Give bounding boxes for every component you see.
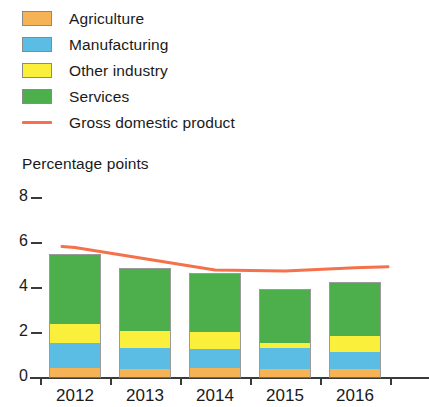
bar-segment[interactable]	[189, 368, 241, 378]
bar-segment[interactable]	[49, 324, 101, 343]
bar-segment[interactable]	[189, 332, 241, 349]
bar-segment[interactable]	[119, 268, 171, 331]
x-axis-tick-label: 2014	[180, 386, 250, 406]
x-axis-tick-label: 2012	[40, 386, 110, 406]
bar-segment[interactable]	[119, 348, 171, 369]
y-axis-tick-label: 2	[2, 322, 28, 340]
bar-segment[interactable]	[49, 254, 101, 324]
x-axis-tick-label: 2013	[110, 386, 180, 406]
y-axis-tick-mark	[31, 197, 42, 199]
bar-stack[interactable]	[259, 0, 311, 407]
y-axis-tick-mark	[31, 332, 42, 334]
y-axis-tick-mark	[31, 287, 42, 289]
x-axis-tick-mark	[40, 379, 42, 385]
x-axis-tick-mark	[390, 379, 392, 385]
bar-segment[interactable]	[259, 369, 311, 378]
bar-stack[interactable]	[49, 0, 101, 407]
plot-area: 0246820122013201420152016	[0, 0, 429, 407]
bar-segment[interactable]	[49, 368, 101, 378]
x-axis-tick-label: 2015	[250, 386, 320, 406]
bar-segment[interactable]	[329, 369, 381, 378]
x-axis-tick-mark	[250, 379, 252, 385]
bar-segment[interactable]	[49, 343, 101, 368]
bar-segment[interactable]	[329, 282, 381, 336]
y-axis-tick-label: 4	[2, 277, 28, 295]
bar-stack[interactable]	[329, 0, 381, 407]
x-axis-tick-mark	[110, 379, 112, 385]
bar-segment[interactable]	[189, 349, 241, 368]
bar-segment[interactable]	[259, 348, 311, 369]
y-axis-tick-label: 6	[2, 232, 28, 250]
x-axis-tick-mark	[180, 379, 182, 385]
bar-stack[interactable]	[189, 0, 241, 407]
bar-segment[interactable]	[119, 369, 171, 378]
bar-segment[interactable]	[329, 352, 381, 369]
bar-segment[interactable]	[259, 289, 311, 343]
bar-stack[interactable]	[119, 0, 171, 407]
bar-segment[interactable]	[189, 273, 241, 332]
y-axis-tick-mark	[31, 242, 42, 244]
y-axis-tick-label: 8	[2, 187, 28, 205]
x-axis-tick-label: 2016	[320, 386, 390, 406]
x-axis-tick-mark	[320, 379, 322, 385]
y-axis-tick-label: 0	[2, 367, 28, 385]
bar-segment[interactable]	[119, 331, 171, 348]
chart-root: AgricultureManufacturingOther industrySe…	[0, 0, 429, 407]
bar-segment[interactable]	[259, 343, 311, 348]
bar-segment[interactable]	[329, 336, 381, 352]
